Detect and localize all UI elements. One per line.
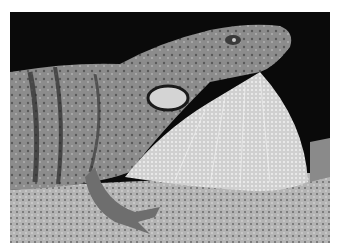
lizard-illustration: [10, 12, 330, 243]
branch-edge: [310, 138, 330, 182]
lizard-photo: [10, 12, 330, 243]
ear-patch: [148, 86, 188, 110]
